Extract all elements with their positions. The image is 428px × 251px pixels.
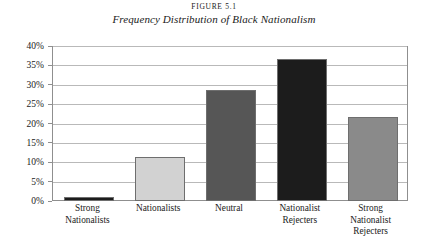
y-axis-tick-label: 20% xyxy=(27,119,44,129)
bar xyxy=(277,59,327,201)
x-axis-label-line: Nationalist xyxy=(264,203,335,215)
plot-area xyxy=(52,46,408,201)
bar xyxy=(64,197,114,201)
y-axis-tick-label: 15% xyxy=(27,138,44,148)
x-axis-category-label: StrongNationalistRejecters xyxy=(335,203,406,238)
x-axis-label-line: Nationalists xyxy=(52,215,123,227)
x-axis-label-line: Rejecters xyxy=(264,215,335,227)
y-axis-labels: 0%5%10%15%20%25%30%35%40% xyxy=(0,46,48,201)
x-axis-label-line: Strong xyxy=(335,203,406,215)
x-axis-label-line: Nationalist xyxy=(335,215,406,227)
bar xyxy=(206,90,256,201)
x-axis-labels: StrongNationalistsNationalistsNeutralNat… xyxy=(52,203,408,249)
x-axis-category-label: Neutral xyxy=(194,203,265,215)
bar-series xyxy=(54,48,408,201)
plot-wrapper xyxy=(52,46,408,201)
x-axis-label-line: Neutral xyxy=(194,203,265,215)
gridline xyxy=(53,46,407,47)
y-axis-tick-label: 0% xyxy=(31,196,44,206)
figure-container: FIGURE 5.1 Frequency Distribution of Bla… xyxy=(0,0,428,251)
x-axis-label-line: Nationalists xyxy=(123,203,194,215)
x-axis-label-line: Strong xyxy=(52,203,123,215)
y-axis-tick-label: 30% xyxy=(27,80,44,90)
figure-title-block: FIGURE 5.1 Frequency Distribution of Bla… xyxy=(0,2,428,26)
figure-caption: Frequency Distribution of Black National… xyxy=(0,12,428,26)
bar xyxy=(135,157,185,201)
y-axis-tick-label: 5% xyxy=(31,177,44,187)
y-axis-tick-label: 10% xyxy=(27,157,44,167)
y-axis-tick-label: 35% xyxy=(27,60,44,70)
bar xyxy=(348,117,398,201)
y-axis-tick-label: 40% xyxy=(27,41,44,51)
x-axis-category-label: NationalistRejecters xyxy=(264,203,335,226)
figure-number: FIGURE 5.1 xyxy=(0,2,428,12)
x-axis-label-line: Rejecters xyxy=(335,226,406,238)
x-axis-category-label: StrongNationalists xyxy=(52,203,123,226)
x-axis-category-label: Nationalists xyxy=(123,203,194,215)
y-axis-tick-label: 25% xyxy=(27,99,44,109)
